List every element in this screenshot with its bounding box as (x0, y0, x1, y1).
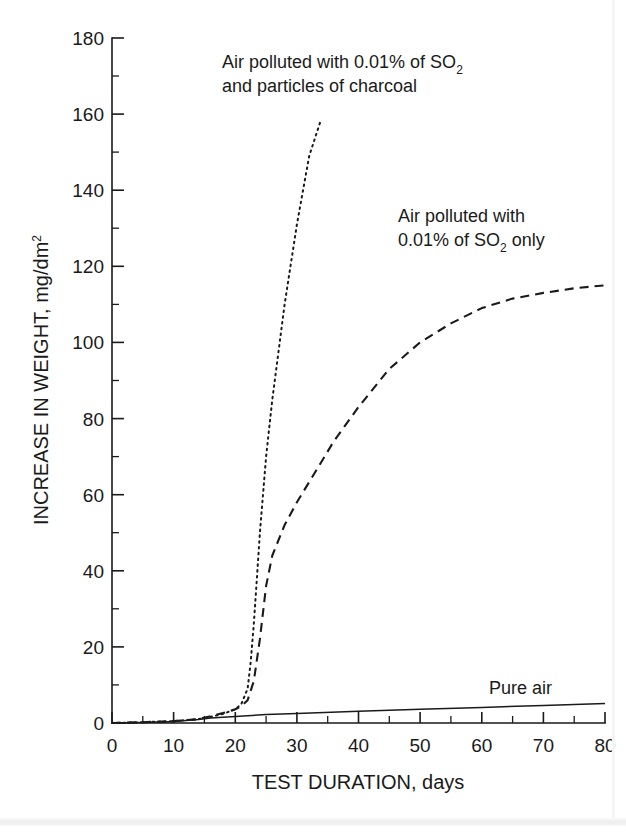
x-axis-title: TEST DURATION, days (252, 771, 465, 793)
charcoal-annotation-line1-subscript: 2 (456, 63, 463, 77)
charcoal-annotation: Air polluted with 0.01% of SO2 and parti… (222, 52, 463, 96)
charcoal-annotation-line1: Air polluted with 0.01% of SO2 (222, 52, 463, 77)
y-tick-label: 60 (83, 485, 104, 506)
so2-only-annotation-line2-text: 0.01% of SO (398, 230, 500, 250)
charcoal-annotation-line2: and particles of charcoal (222, 76, 417, 96)
series-so2-only (112, 285, 605, 723)
x-axis-title-unit: , days (411, 771, 464, 793)
series-so2-charcoal (112, 122, 320, 723)
series-group (112, 122, 605, 723)
x-tick-label: 50 (410, 735, 431, 756)
y-axis-title-exponent: 2 (30, 235, 44, 242)
y-tick-label: 80 (83, 409, 104, 430)
y-minor-ticks (112, 76, 119, 685)
x-major-ticks (112, 712, 605, 723)
y-axis-title: INCREASE IN WEIGHT, mg/dm2 (30, 235, 52, 525)
so2-only-annotation: Air polluted with 0.01% of SO2 only (398, 206, 545, 255)
y-tick-label: 20 (83, 637, 104, 658)
x-tick-label: 70 (533, 735, 554, 756)
x-tick-label: 30 (286, 735, 307, 756)
annotations-group: Air polluted with 0.01% of SO2 and parti… (222, 52, 552, 698)
x-tick-label: 0 (107, 735, 118, 756)
so2-only-annotation-line2-tail: only (507, 230, 545, 250)
x-tick-label: 10 (163, 735, 184, 756)
charcoal-annotation-line1-text: Air polluted with 0.01% of SO (222, 52, 456, 72)
x-tick-label: 20 (225, 735, 246, 756)
y-tick-label: 100 (72, 332, 104, 353)
y-tick-labels: 0 20 40 60 80 100 120 140 160 180 (72, 28, 104, 734)
y-tick-label: 140 (72, 180, 104, 201)
y-axis-title-main: INCREASE IN WEIGHT (30, 312, 52, 525)
so2-only-annotation-line2: 0.01% of SO2 only (398, 230, 545, 255)
pure-air-annotation: Pure air (489, 678, 552, 698)
y-tick-label: 0 (93, 713, 104, 734)
axis-spines (112, 38, 605, 723)
chart-canvas: 0 20 40 60 80 100 120 140 160 180 0 10 2… (0, 0, 626, 839)
x-tick-labels: 0 10 20 30 40 50 60 70 80 (107, 735, 616, 756)
x-axis-title-main: TEST DURATION (252, 771, 411, 793)
x-tick-label: 80 (594, 735, 615, 756)
so2-only-annotation-line1: Air polluted with (398, 206, 525, 226)
y-tick-label: 40 (83, 561, 104, 582)
x-tick-label: 40 (348, 735, 369, 756)
y-tick-label: 120 (72, 256, 104, 277)
x-tick-label: 60 (471, 735, 492, 756)
figure-root: 0 20 40 60 80 100 120 140 160 180 0 10 2… (0, 0, 626, 839)
y-tick-label: 180 (72, 28, 104, 49)
y-axis-title-unit: , mg/dm (30, 242, 52, 314)
y-tick-label: 160 (72, 104, 104, 125)
